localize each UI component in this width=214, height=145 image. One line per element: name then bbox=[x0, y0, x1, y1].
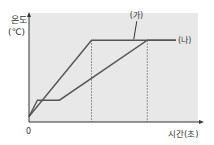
y-axis-label-line1: 온도 bbox=[11, 15, 27, 25]
y-axis-label-line2: (℃) bbox=[8, 27, 25, 37]
plot-background bbox=[29, 13, 198, 122]
x-axis-label: 시간(초) bbox=[168, 129, 199, 139]
x-axis-arrow-icon bbox=[199, 120, 204, 124]
annotation-label-0: (가) bbox=[130, 11, 143, 20]
annotation-label-1: (나) bbox=[178, 36, 191, 45]
temperature-time-chart: 온도 (℃) 0 시간(초) (가)(나) bbox=[0, 0, 214, 145]
origin-label: 0 bbox=[26, 127, 31, 136]
